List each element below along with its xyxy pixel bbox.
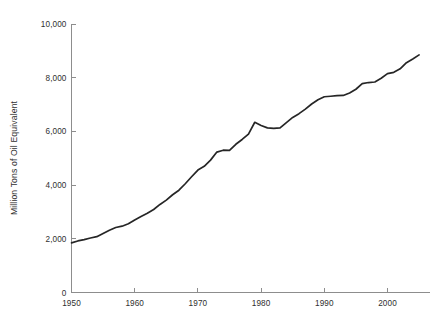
x-tick-label: 2000 [378,299,397,308]
y-axis-ticks: 02,0004,0006,0008,00010,000 [41,20,76,298]
line-chart-plot: 02,0004,0006,0008,00010,000 195019601970… [0,0,437,326]
x-tick-label: 1970 [189,299,208,308]
x-tick-label: 1960 [125,299,144,308]
x-tick-label: 1950 [62,299,81,308]
x-tick-label: 1980 [252,299,271,308]
y-tick-label: 0 [62,289,67,298]
y-tick-label: 10,000 [41,20,67,29]
data-series-line [72,55,420,243]
x-tick-label: 1990 [315,299,334,308]
y-tick-label: 4,000 [46,181,67,190]
chart-container: 02,0004,0006,0008,00010,000 195019601970… [0,0,437,326]
y-tick-label: 2,000 [46,235,67,244]
x-axis-ticks: 195019601970198019902000 [62,288,397,308]
y-tick-label: 6,000 [46,127,67,136]
y-tick-label: 8,000 [46,74,67,83]
y-axis-title: Million Tons of Oil Equivalent [9,100,19,215]
